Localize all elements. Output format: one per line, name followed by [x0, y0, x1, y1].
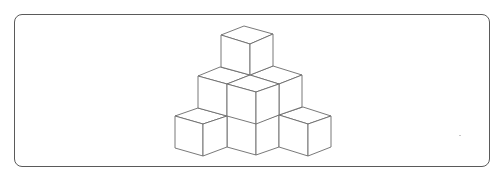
cube-middle-front	[227, 75, 279, 124]
cube-bottom-right	[279, 107, 331, 156]
cube-top	[221, 26, 273, 75]
scan-speck	[459, 135, 461, 136]
cube-bottom-left	[175, 108, 227, 156]
cube-stack-diagram	[0, 0, 503, 181]
